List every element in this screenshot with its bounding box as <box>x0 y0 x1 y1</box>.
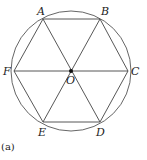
label-F: F <box>2 65 11 78</box>
label-E: E <box>37 126 46 139</box>
label-B: B <box>100 5 109 18</box>
label-A: A <box>36 5 45 18</box>
label-D: D <box>95 126 105 139</box>
figure-caption: (a) <box>1 141 15 152</box>
label-C: C <box>131 65 140 78</box>
center-point-O <box>69 69 73 73</box>
label-O: O <box>66 74 75 87</box>
hexagon-diagram: A B C D E F O (a) <box>0 0 147 160</box>
